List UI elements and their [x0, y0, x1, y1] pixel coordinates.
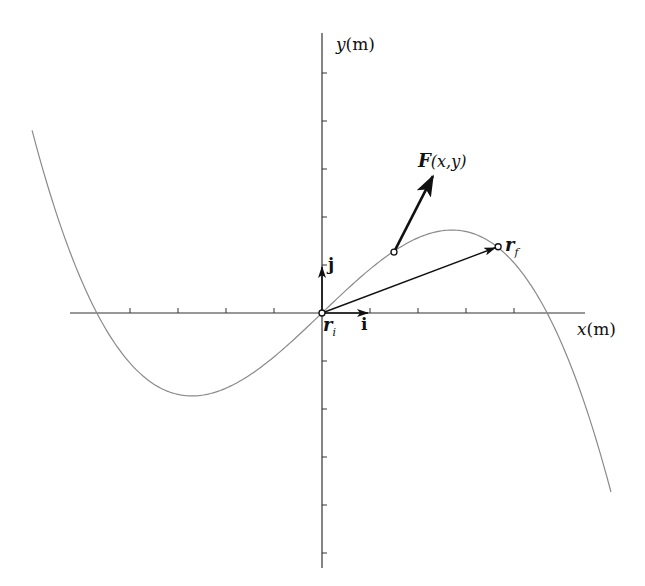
x-axis-label: x(m) — [577, 319, 616, 339]
force-args: (x,y) — [431, 152, 467, 171]
y-axis-var: y — [336, 34, 346, 54]
force-vector — [394, 176, 433, 252]
x-axis-var: x — [577, 319, 587, 339]
axes — [70, 33, 585, 568]
i-label: i — [361, 314, 367, 334]
y-axis-label: y(m) — [336, 34, 375, 54]
x-axis-unit: (m) — [587, 319, 616, 339]
final-point — [495, 244, 501, 250]
ri-label: ri — [323, 314, 336, 339]
y-axis-unit: (m) — [346, 34, 375, 54]
rf-subscript: f — [514, 246, 518, 259]
rf-label: rf — [505, 234, 519, 259]
displacement-vector — [322, 248, 495, 313]
ri-subscript: i — [332, 326, 336, 339]
force-var: F — [418, 150, 431, 171]
plot-canvas — [0, 0, 645, 586]
force-label: F(x,y) — [418, 150, 466, 171]
force-application-point — [391, 249, 397, 255]
j-label: j — [328, 254, 334, 274]
work-diagram: y(m) x(m) F(x,y) rf ri i j — [0, 0, 645, 586]
